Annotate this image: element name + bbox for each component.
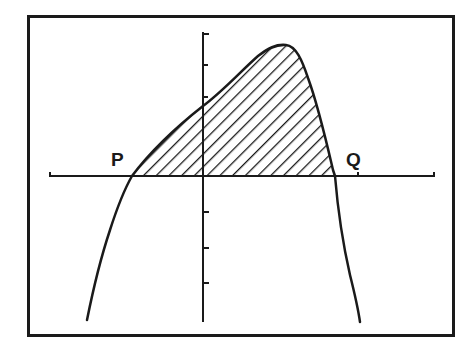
point-label-q: Q	[346, 150, 361, 169]
function-graph	[0, 0, 476, 355]
point-label-p: P	[111, 150, 124, 169]
function-curve	[87, 45, 360, 322]
